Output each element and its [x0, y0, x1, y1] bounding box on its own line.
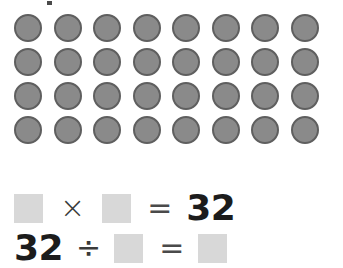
clipped-text-artifact: [47, 1, 52, 5]
equation-list: × = 32 32 ÷ =: [14, 188, 334, 268]
circle-counter-icon: [212, 14, 240, 42]
circle-counter-icon: [172, 14, 200, 42]
answer-blank-quotient[interactable]: [198, 234, 227, 263]
equals-sign: =: [147, 193, 172, 223]
answer-blank-factor-2[interactable]: [102, 194, 131, 223]
circle-counter-icon: [14, 116, 42, 144]
answer-blank-factor-1[interactable]: [14, 194, 43, 223]
circle-counter-icon: [133, 116, 161, 144]
answer-blank-divisor[interactable]: [114, 234, 143, 263]
circle-counter-icon: [93, 48, 121, 76]
circle-counter-icon: [212, 116, 240, 144]
circle-counter-icon: [133, 48, 161, 76]
circle-counter-icon: [133, 82, 161, 110]
circle-counter-icon: [54, 14, 82, 42]
division-equation: 32 ÷ =: [14, 228, 334, 268]
circle-counter-icon: [291, 82, 319, 110]
circle-counter-icon: [14, 48, 42, 76]
circle-counter-icon: [291, 48, 319, 76]
circle-counter-icon: [54, 116, 82, 144]
circle-counter-icon: [212, 48, 240, 76]
division-sign: ÷: [76, 233, 101, 263]
circle-counter-icon: [251, 14, 279, 42]
circle-counter-icon: [291, 14, 319, 42]
dividend-value: 32: [14, 230, 63, 266]
circle-counter-icon: [133, 14, 161, 42]
circle-counter-icon: [291, 116, 319, 144]
circle-counter-icon: [54, 82, 82, 110]
circle-counter-icon: [251, 48, 279, 76]
worksheet-page: × = 32 32 ÷ =: [0, 0, 343, 268]
circle-counter-icon: [93, 82, 121, 110]
counter-array: [14, 11, 330, 147]
circle-counter-icon: [212, 82, 240, 110]
circle-counter-icon: [14, 82, 42, 110]
circle-counter-icon: [172, 116, 200, 144]
circle-counter-icon: [54, 48, 82, 76]
circle-counter-icon: [251, 82, 279, 110]
circle-counter-icon: [172, 48, 200, 76]
circle-counter-icon: [14, 14, 42, 42]
circle-counter-icon: [93, 116, 121, 144]
circle-counter-icon: [251, 116, 279, 144]
multiplication-equation: × = 32: [14, 188, 334, 228]
circle-counter-icon: [93, 14, 121, 42]
circle-counter-icon: [172, 82, 200, 110]
product-value: 32: [186, 190, 235, 226]
multiplication-sign: ×: [60, 193, 85, 223]
equals-sign: =: [159, 233, 184, 263]
